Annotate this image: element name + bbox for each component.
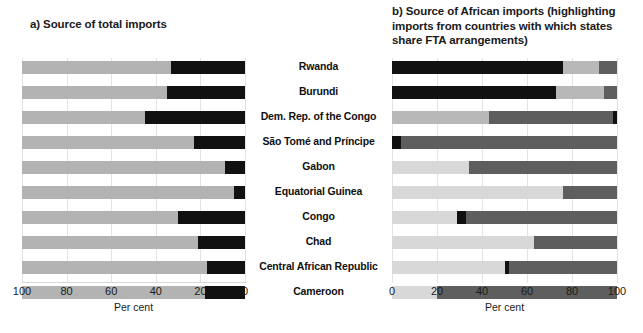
bar-segment: [22, 111, 145, 124]
chart-b-bar-row: [392, 111, 617, 124]
axis-tick-label: 20: [431, 285, 443, 297]
bar-segment: [207, 261, 245, 274]
stacked-bar: [22, 211, 245, 224]
stacked-bar: [22, 111, 245, 124]
chart-a-plot-area: [22, 58, 245, 283]
chart-a-bar-row: [22, 136, 245, 149]
bar-segment: [198, 236, 245, 249]
chart-b-bar-row: [392, 236, 617, 249]
chart-b-bar-row: [392, 136, 617, 149]
bar-segment: [534, 236, 617, 249]
stacked-bar: [22, 61, 245, 74]
bar-segment: [392, 261, 505, 274]
axis-tick-label: 100: [13, 285, 31, 297]
stacked-bar: [392, 86, 617, 99]
bar-segment: [234, 186, 245, 199]
bar-segment: [22, 261, 207, 274]
bar-segment: [563, 61, 599, 74]
stacked-bar: [392, 261, 617, 274]
bar-segment: [563, 186, 617, 199]
bar-segment: [392, 186, 563, 199]
stacked-bar: [22, 186, 245, 199]
gridline: [617, 58, 618, 283]
bar-segment: [599, 61, 617, 74]
axis-tick-label: 80: [566, 285, 578, 297]
bar-segment: [171, 61, 245, 74]
bar-segment: [22, 236, 198, 249]
chart-a-bar-row: [22, 61, 245, 74]
chart-a-axis-title: Per cent: [114, 301, 153, 313]
chart-a-bars: [22, 58, 245, 283]
chart-a-bar-row: [22, 161, 245, 174]
bar-segment: [194, 136, 245, 149]
chart-a-bar-row: [22, 111, 245, 124]
bar-segment: [22, 136, 194, 149]
bar-segment: [392, 61, 563, 74]
axis-tick-label: 0: [389, 285, 395, 297]
axis-tick-label: 40: [150, 285, 162, 297]
bar-segment: [167, 86, 245, 99]
chart-b-bar-row: [392, 61, 617, 74]
chart-a-bar-row: [22, 211, 245, 224]
bar-segment: [556, 86, 603, 99]
stacked-bar: [392, 111, 617, 124]
bar-segment: [604, 86, 618, 99]
bar-segment: [22, 186, 234, 199]
bar-segment: [392, 211, 457, 224]
stacked-bar: [22, 261, 245, 274]
axis-tick-label: 60: [521, 285, 533, 297]
bar-segment: [145, 111, 245, 124]
chart-a-bar-row: [22, 261, 245, 274]
panel-a-title: a) Source of total imports: [30, 17, 290, 32]
axis-tick-label: 40: [476, 285, 488, 297]
chart-b-bars: [392, 58, 617, 283]
bar-segment: [392, 136, 401, 149]
stacked-bar: [392, 211, 617, 224]
bar-segment: [22, 61, 171, 74]
stacked-bar: [392, 236, 617, 249]
bar-segment: [457, 211, 466, 224]
stacked-bar: [392, 136, 617, 149]
chart-b-bar-row: [392, 261, 617, 274]
bar-segment: [466, 211, 617, 224]
stacked-bar: [392, 186, 617, 199]
chart-b-bar-row: [392, 186, 617, 199]
bar-segment: [392, 236, 534, 249]
axis-tick-label: 60: [105, 285, 117, 297]
axis-tick-label: 20: [194, 285, 206, 297]
stacked-bar: [22, 161, 245, 174]
stacked-bar: [392, 61, 617, 74]
bar-segment: [22, 211, 178, 224]
chart-b-axis-title: Per cent: [485, 301, 524, 313]
bar-segment: [225, 161, 245, 174]
axis-tick-label: 80: [60, 285, 72, 297]
bar-segment: [22, 161, 225, 174]
bar-segment: [489, 111, 613, 124]
bar-segment: [392, 86, 556, 99]
chart-a-axis-line: [22, 282, 246, 283]
chart-b-plot-area: [392, 58, 617, 283]
stacked-bar: [22, 236, 245, 249]
stacked-bar: [392, 161, 617, 174]
bar-segment: [401, 136, 617, 149]
bar-segment: [509, 261, 617, 274]
chart-b-bar-row: [392, 86, 617, 99]
bar-segment: [178, 211, 245, 224]
bar-segment: [22, 86, 167, 99]
panel-b-title: b) Source of African imports (highlighti…: [392, 4, 640, 48]
chart-a-bar-row: [22, 236, 245, 249]
bar-segment: [469, 161, 618, 174]
chart-b-x-axis: 020406080100Per cent: [320, 285, 643, 305]
bar-segment: [613, 111, 618, 124]
chart-b-bar-row: [392, 211, 617, 224]
chart-b-bar-row: [392, 161, 617, 174]
axis-tick-label: 100: [608, 285, 626, 297]
bar-segment: [392, 161, 469, 174]
chart-a-bar-row: [22, 86, 245, 99]
gridline: [245, 58, 246, 283]
stacked-bar: [22, 86, 245, 99]
stacked-bar: [22, 136, 245, 149]
bar-segment: [392, 111, 489, 124]
chart-a-bar-row: [22, 186, 245, 199]
